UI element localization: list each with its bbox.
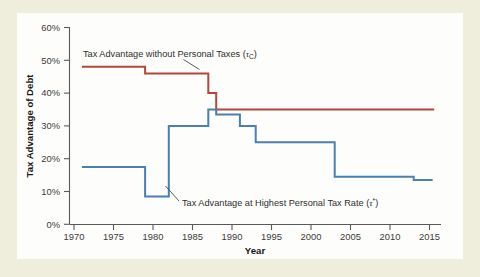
x-tick-label: 2005 — [340, 231, 361, 242]
annotation-tau-star: Tax Advantage at Highest Personal Tax Ra… — [182, 197, 378, 208]
tax-advantage-line-chart: 60% 50% 40% 30% 20% 10% 0% — [17, 13, 463, 259]
series-line-tax-advantage-without-personal-taxes — [82, 67, 434, 110]
y-tick-label: 20% — [41, 153, 60, 164]
annotation-tau-star-suffix: ) — [375, 198, 378, 208]
x-tick-label: 1990 — [222, 231, 243, 242]
annotation-tau-c: Tax Advantage without Personal Taxes (τC… — [83, 49, 257, 60]
y-tick-label: 30% — [41, 120, 60, 131]
x-tick-label: 2015 — [419, 231, 440, 242]
x-axis-ticks — [74, 225, 430, 231]
annotation-tau-c-prefix: Tax Advantage without Personal Taxes ( — [83, 49, 246, 59]
x-axis-title: Year — [245, 245, 266, 256]
annotation-tau-c-suffix: ) — [254, 49, 257, 59]
annotation-leader-line-tau-star — [166, 186, 180, 201]
x-tick-label: 2000 — [301, 231, 322, 242]
figure-frame: 60% 50% 40% 30% 20% 10% 0% — [0, 0, 480, 277]
annotation-leader-line-tau-c — [184, 60, 200, 70]
x-tick-label: 1970 — [64, 231, 85, 242]
y-axis-tick-labels: 60% 50% 40% 30% 20% 10% 0% — [41, 22, 60, 230]
y-tick-label: 10% — [41, 186, 60, 197]
x-tick-label: 1985 — [182, 231, 203, 242]
annotation-tau-star-prefix: Tax Advantage at Highest Personal Tax Ra… — [182, 198, 369, 208]
y-axis-title: Tax Advantage of Debt — [24, 74, 35, 178]
y-tick-label: 60% — [41, 22, 60, 33]
y-tick-label: 0% — [46, 219, 60, 230]
x-tick-label: 2010 — [380, 231, 401, 242]
y-axis-ticks — [64, 28, 70, 225]
series-line-tax-advantage-highest-personal-tax-rate — [82, 110, 433, 197]
x-axis-tick-labels: 1970 1975 1980 1985 1990 1995 2000 2005 … — [64, 231, 440, 242]
x-tick-label: 1995 — [261, 231, 282, 242]
y-tick-label: 50% — [41, 55, 60, 66]
y-tick-label: 40% — [41, 87, 60, 98]
x-tick-label: 1980 — [143, 231, 164, 242]
chart-panel: 60% 50% 40% 30% 20% 10% 0% — [17, 13, 463, 259]
x-tick-label: 1975 — [103, 231, 124, 242]
